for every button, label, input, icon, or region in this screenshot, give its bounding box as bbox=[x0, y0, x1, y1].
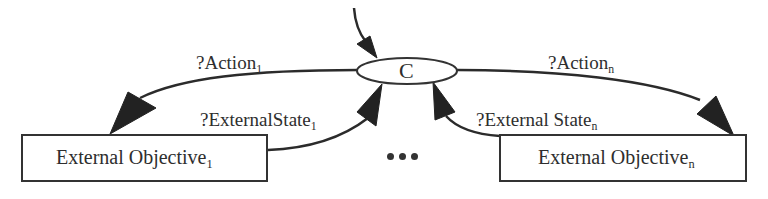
edge-externalstate-1-arrowhead-icon bbox=[357, 84, 382, 126]
edge-label-action-1: ?Action1 bbox=[196, 53, 262, 72]
objective-label-n: External Objectiven bbox=[538, 147, 695, 167]
edge-label-subscript: 1 bbox=[256, 63, 262, 76]
objective-label-text: External Objective bbox=[56, 146, 207, 168]
input-arrow bbox=[354, 8, 366, 42]
dot-icon bbox=[387, 153, 394, 160]
dot-icon bbox=[411, 153, 418, 160]
edge-label-text: ?Action bbox=[548, 52, 608, 73]
objective-label-subscript: n bbox=[689, 157, 695, 171]
edge-label-subscript: 1 bbox=[311, 120, 317, 133]
edge-action-1-arrowhead-icon bbox=[110, 92, 156, 134]
edge-label-externalstate-1: ?ExternalState1 bbox=[200, 110, 317, 129]
edge-label-subscript: n bbox=[592, 120, 598, 133]
center-node-text: C bbox=[399, 58, 414, 83]
edge-label-text: ?Action bbox=[196, 52, 256, 73]
edge-label-text: ?External State bbox=[476, 109, 592, 130]
edge-label-externalstate-n: ?External Staten bbox=[476, 110, 597, 129]
center-node-label: C bbox=[399, 60, 414, 82]
edge-label-text: ?ExternalState bbox=[200, 109, 311, 130]
edge-action-n-arrowhead-icon bbox=[697, 96, 734, 136]
edge-action-n bbox=[457, 70, 700, 100]
objective-label-text: External Objective bbox=[538, 146, 689, 168]
edge-externalstate-n-arrowhead-icon bbox=[433, 82, 455, 120]
diagram-canvas bbox=[0, 0, 768, 199]
edge-label-action-n: ?Actionn bbox=[548, 53, 614, 72]
edge-label-subscript: n bbox=[608, 63, 614, 76]
objective-label-1: External Objective1 bbox=[56, 147, 213, 167]
input-arrowhead-icon bbox=[357, 36, 377, 58]
edge-action-1 bbox=[140, 70, 358, 98]
dot-icon bbox=[399, 153, 406, 160]
objective-label-subscript: 1 bbox=[207, 157, 213, 171]
ellipsis-dots bbox=[387, 153, 418, 160]
